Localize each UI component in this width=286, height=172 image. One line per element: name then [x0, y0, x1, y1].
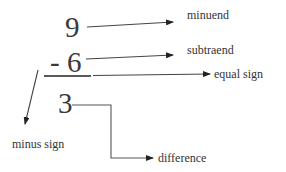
subtrahend-arrow [86, 55, 173, 59]
difference-arrow [72, 105, 153, 158]
equal-sign-label: equal sign [214, 68, 263, 80]
minuend-value: 9 [65, 13, 80, 42]
equal-sign-arrow [93, 74, 210, 76]
minuend-arrow [87, 22, 173, 27]
minuend-label: minuend [187, 9, 229, 21]
subtrahend-label: subtraend [187, 44, 234, 56]
difference-value: 3 [58, 89, 73, 118]
difference-label: difference [158, 152, 206, 164]
subtrahend-value: - 6 [50, 48, 81, 77]
minus-sign-arrow [25, 70, 38, 124]
minus-sign-label: minus sign [12, 138, 64, 150]
